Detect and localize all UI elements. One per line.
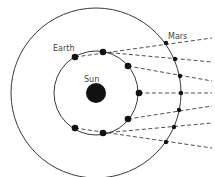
earth-position-dot (125, 116, 132, 123)
sightline (103, 52, 212, 62)
mars-position-dot (178, 74, 182, 78)
earth-position-dot (72, 125, 79, 132)
mars-positions (164, 41, 183, 144)
mars-position-dot (164, 41, 168, 45)
sightline (128, 106, 212, 119)
earth-position-dot (100, 49, 107, 56)
earth-label: Earth (53, 44, 74, 53)
earth-position-dot (72, 54, 79, 61)
earth-position-dot (100, 130, 107, 137)
mars-position-dot (173, 57, 177, 61)
mars-position-dot (164, 140, 168, 144)
mars-position-dot (172, 125, 176, 129)
sun-body (86, 83, 106, 103)
earth-position-dot (125, 63, 132, 70)
sightline (75, 38, 212, 57)
earth-position-dot (136, 90, 143, 97)
mars-label: Mars (168, 32, 187, 41)
diagram-canvas: Sun Earth Mars (0, 0, 215, 177)
earth-positions (72, 49, 143, 137)
mars-position-dot (179, 91, 183, 95)
sun-label: Sun (84, 75, 99, 84)
sightline (128, 66, 212, 81)
sightline (75, 128, 212, 148)
mars-position-dot (177, 108, 181, 112)
retrograde-diagram: Sun Earth Mars (0, 0, 215, 177)
